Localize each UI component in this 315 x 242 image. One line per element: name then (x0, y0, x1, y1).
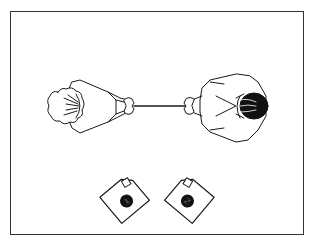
card-2: 2 (165, 174, 214, 223)
card-1: 1 (100, 174, 149, 223)
person-left-icon (48, 80, 134, 133)
diagram-canvas: 1 2 (0, 0, 315, 242)
person-right-icon (184, 74, 268, 142)
